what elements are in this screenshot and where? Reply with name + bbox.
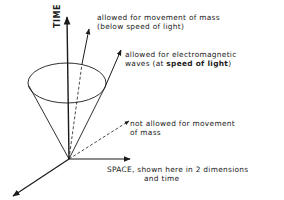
mass-allowed-line2: (below speed of light) <box>97 22 220 31</box>
mass-path-inner <box>69 64 82 159</box>
mass-allowed-label: allowed for movement of mass (below spee… <box>97 13 220 31</box>
cone-right-edge <box>69 87 105 159</box>
space-axis-y <box>13 159 69 196</box>
not-allowed-label: not allowed for movement of mass <box>130 119 235 137</box>
em-waves-prefix: waves (at <box>125 59 166 68</box>
not-allowed-line1: not allowed for movement <box>130 119 235 128</box>
em-waves-line2: waves (at speed of light) <box>125 59 237 68</box>
space-label-line2: and time <box>107 174 248 183</box>
cone-left-edge <box>29 86 69 159</box>
space-axis-label: SPACE, shown here in 2 dimensions and ti… <box>107 165 248 183</box>
em-waves-label: allowed for electromagnetic waves (at sp… <box>125 50 237 68</box>
light-path <box>105 50 121 87</box>
speed-of-light-emphasis: speed of light <box>166 59 228 68</box>
time-axis <box>67 17 69 159</box>
mass-allowed-line1: allowed for movement of mass <box>97 13 220 22</box>
em-waves-suffix: ) <box>228 59 231 68</box>
cone-rim <box>28 63 106 103</box>
em-waves-line1: allowed for electromagnetic <box>125 50 237 59</box>
not-allowed-line2: of mass <box>130 128 235 137</box>
space-label-line1: SPACE, shown here in 2 dimensions <box>107 165 248 174</box>
time-axis-label: TIME <box>53 4 62 28</box>
mass-path-outer <box>82 29 89 64</box>
